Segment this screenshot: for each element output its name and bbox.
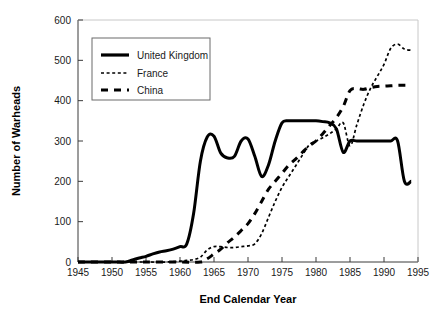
x-tick-label: 1975	[271, 267, 294, 278]
y-axis-ticks	[78, 20, 83, 262]
series-line-united-kingdom	[78, 121, 411, 262]
x-tick-label: 1955	[135, 267, 158, 278]
x-tick-label: 1950	[101, 267, 124, 278]
y-tick-label: 400	[54, 95, 71, 106]
series-line-china	[78, 85, 411, 262]
x-tick-label: 1980	[305, 267, 328, 278]
legend-label-france: France	[137, 68, 169, 79]
x-axis-tick-labels: 1945195019551960196519701975198019851990…	[67, 267, 430, 278]
y-axis-tick-labels: 0100200300400500600	[54, 15, 71, 268]
chart-legend: United Kingdom France China	[92, 38, 210, 100]
x-tick-label: 1960	[169, 267, 192, 278]
x-tick-label: 1985	[339, 267, 362, 278]
y-tick-label: 0	[65, 257, 71, 268]
x-tick-label: 1970	[237, 267, 260, 278]
legend-label-china: China	[137, 85, 164, 96]
x-tick-label: 1945	[67, 267, 90, 278]
y-tick-label: 100	[54, 216, 71, 227]
x-tick-label: 1995	[407, 267, 430, 278]
y-axis-title: Number of Warheads	[10, 86, 22, 196]
legend-label-united-kingdom: United Kingdom	[137, 50, 208, 61]
y-tick-label: 300	[54, 136, 71, 147]
x-tick-label: 1965	[203, 267, 226, 278]
y-tick-label: 600	[54, 15, 71, 26]
warheads-line-chart: 0100200300400500600 19451950195519601965…	[0, 0, 446, 316]
x-tick-label: 1990	[373, 267, 396, 278]
y-tick-label: 200	[54, 176, 71, 187]
y-tick-label: 500	[54, 55, 71, 66]
chart-page: 0100200300400500600 19451950195519601965…	[0, 0, 446, 316]
x-axis-title: End Calendar Year	[199, 293, 297, 305]
